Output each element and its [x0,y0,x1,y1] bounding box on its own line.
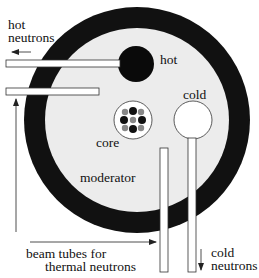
cold-source [174,101,212,139]
hot-source [118,46,154,82]
thermal-beam-tube-horizontal [6,88,99,95]
hot-neutrons-label-line2: neutrons [8,32,55,44]
hot-beam-tube [6,60,120,67]
cold-source-label: cold [183,89,206,101]
core-label: core [96,137,119,149]
cold-neutrons-label-line2: neutrons [211,260,258,272]
reactor-core [114,101,152,139]
thermal-beam-tube-vertical [160,148,168,272]
hot-source-label: hot [160,54,177,66]
cold-beam-tube [188,138,196,272]
beam-tubes-label-line2: thermal neutrons [45,261,136,273]
moderator-label: moderator [80,172,135,184]
